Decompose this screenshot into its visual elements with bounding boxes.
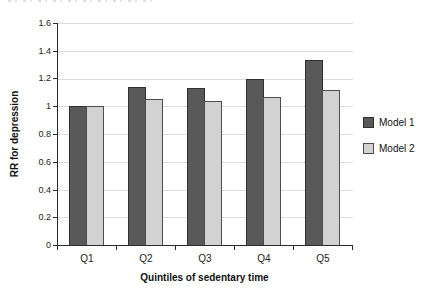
bar-chart: RR for depression Quintiles of sedentary… bbox=[0, 0, 432, 301]
legend-label-model-1: Model 1 bbox=[379, 117, 415, 128]
x-axis-category-label: Q5 bbox=[316, 253, 329, 264]
bar-q1-model-1 bbox=[69, 106, 87, 245]
x-axis-tick bbox=[57, 246, 58, 250]
y-axis-tick-label: 0.4 bbox=[27, 185, 51, 196]
y-axis-tick bbox=[53, 78, 57, 79]
legend-swatch-model-1 bbox=[363, 117, 374, 128]
legend: Model 1 Model 2 bbox=[363, 116, 415, 168]
y-axis-tick bbox=[53, 217, 57, 218]
x-axis-category-label: Q3 bbox=[198, 253, 211, 264]
x-axis-tick bbox=[116, 246, 117, 250]
gridline bbox=[58, 51, 353, 52]
y-axis-tick-label: 1.2 bbox=[27, 73, 51, 84]
gridline bbox=[58, 23, 353, 24]
legend-item-model-1: Model 1 bbox=[363, 116, 415, 129]
y-axis-tick-label: 0.6 bbox=[27, 157, 51, 168]
y-axis-tick-label: 0 bbox=[27, 240, 51, 251]
bar-q3-model-1 bbox=[187, 88, 205, 245]
y-axis-tick-label: 0.2 bbox=[27, 212, 51, 223]
y-axis-tick-label: 1 bbox=[27, 101, 51, 112]
cropped-text-remnant bbox=[8, 0, 156, 2]
bar-q5-model-1 bbox=[305, 60, 323, 245]
x-axis-tick bbox=[352, 246, 353, 250]
x-axis-category-label: Q2 bbox=[139, 253, 152, 264]
x-axis-tick bbox=[293, 246, 294, 250]
bar-q1-model-2 bbox=[86, 106, 104, 245]
y-axis-tick bbox=[53, 134, 57, 135]
legend-swatch-model-2 bbox=[363, 143, 374, 154]
y-axis-tick bbox=[53, 162, 57, 163]
y-axis-tick-label: 1.6 bbox=[27, 18, 51, 29]
x-axis-category-label: Q1 bbox=[80, 253, 93, 264]
y-axis-title: RR for depression bbox=[9, 91, 20, 178]
bar-q4-model-1 bbox=[246, 79, 264, 245]
x-axis-title: Quintiles of sedentary time bbox=[57, 272, 352, 283]
y-axis-tick bbox=[53, 106, 57, 107]
legend-item-model-2: Model 2 bbox=[363, 142, 415, 155]
legend-label-model-2: Model 2 bbox=[379, 143, 415, 154]
y-axis-tick-label: 0.8 bbox=[27, 129, 51, 140]
y-axis-tick bbox=[53, 51, 57, 52]
x-axis-tick bbox=[234, 246, 235, 250]
bar-q5-model-2 bbox=[322, 90, 340, 245]
bar-q4-model-2 bbox=[263, 97, 281, 245]
y-axis-tick bbox=[53, 190, 57, 191]
y-axis-tick bbox=[53, 23, 57, 24]
bar-q3-model-2 bbox=[204, 101, 222, 245]
x-axis-category-label: Q4 bbox=[257, 253, 270, 264]
bar-q2-model-2 bbox=[145, 99, 163, 245]
bar-q2-model-1 bbox=[128, 87, 146, 245]
y-axis-tick-label: 1.4 bbox=[27, 46, 51, 57]
x-axis-tick bbox=[175, 246, 176, 250]
